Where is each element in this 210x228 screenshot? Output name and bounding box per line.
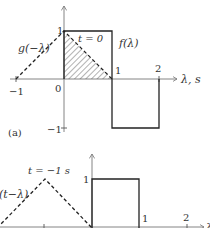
tick-x-neg1: −1 bbox=[9, 86, 24, 97]
g-t-minus-lambda-label: g(t−λ) bbox=[0, 188, 28, 201]
axis-label-b: λ bbox=[205, 221, 210, 228]
tick-x-2: 2 bbox=[155, 63, 161, 74]
axis-label-a: λ, s bbox=[180, 73, 201, 86]
time-label-a: t = 0 bbox=[78, 33, 104, 44]
tick-x-1-b: 1 bbox=[142, 213, 148, 224]
tick-y-neg1: −1 bbox=[47, 124, 62, 135]
g-t-minus-lambda-curve bbox=[0, 179, 92, 228]
panel-b: g(t−λ) t = −1 s 1 1 2 λ bbox=[0, 154, 210, 228]
panel-a-label: (a) bbox=[8, 127, 22, 138]
tick-x-2-b: 2 bbox=[183, 212, 189, 223]
tick-x-1: 1 bbox=[115, 65, 121, 76]
tick-x-0: 0 bbox=[55, 83, 61, 94]
tick-y-1-b: 1 bbox=[83, 174, 89, 185]
tick-y-1: 1 bbox=[57, 25, 63, 36]
convolution-diagram: g(−λ) t = 0 f(λ) λ, s −1 0 1 2 1 −1 (a) … bbox=[0, 0, 210, 228]
f-lambda-label: f(λ) bbox=[118, 37, 139, 50]
time-label-b: t = −1 s bbox=[28, 165, 70, 176]
g-neg-lambda-label: g(−λ) bbox=[18, 42, 50, 55]
panel-a: g(−λ) t = 0 f(λ) λ, s −1 0 1 2 1 −1 (a) bbox=[8, 6, 201, 138]
f-lambda-curve-b bbox=[92, 179, 139, 228]
